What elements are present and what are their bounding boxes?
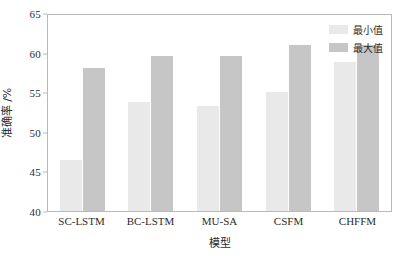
legend: 最小值最大值 xyxy=(325,19,387,58)
bar-group xyxy=(185,15,254,211)
bar xyxy=(83,68,105,211)
bar xyxy=(197,106,219,211)
bar-group xyxy=(48,15,117,211)
y-axis-tick-label: 65 xyxy=(30,8,41,20)
bar xyxy=(266,92,288,211)
bar xyxy=(289,45,311,211)
y-axis-tick-label: 40 xyxy=(30,206,41,218)
x-axis-tick-labels: SC-LSTMBC-LSTMMU-SACSFMCHFFM xyxy=(47,215,392,233)
legend-swatch-icon xyxy=(329,43,348,52)
plot-area: 最小值最大值 xyxy=(47,14,392,212)
bar xyxy=(357,45,379,211)
y-axis-tick-label: 45 xyxy=(30,166,41,178)
x-axis-tick-label: SC-LSTM xyxy=(47,215,116,233)
y-axis-tick-label: 55 xyxy=(30,87,41,99)
legend-label: 最小值 xyxy=(353,22,383,37)
legend-item: 最大值 xyxy=(329,40,383,55)
bar xyxy=(334,62,356,211)
x-axis-tick-label: CHFFM xyxy=(323,215,392,233)
bar-group xyxy=(254,15,323,211)
bar-group xyxy=(117,15,186,211)
y-axis-tick-label: 60 xyxy=(30,48,41,60)
y-axis-title: 准确率 /% xyxy=(0,88,14,139)
bar xyxy=(151,56,173,211)
bar-chart-figure: 404550556065 准确率 /% 最小值最大值 SC-LSTMBC-LST… xyxy=(0,0,403,261)
x-axis-title: 模型 xyxy=(47,234,392,250)
y-axis-tick-label: 50 xyxy=(30,127,41,139)
legend-item: 最小值 xyxy=(329,22,383,37)
x-axis-tick-label: BC-LSTM xyxy=(116,215,185,233)
x-axis-tick-label: CSFM xyxy=(254,215,323,233)
bar xyxy=(128,102,150,211)
legend-label: 最大值 xyxy=(353,40,383,55)
legend-swatch-icon xyxy=(329,25,348,34)
x-axis-tick-label: MU-SA xyxy=(185,215,254,233)
bar xyxy=(60,160,82,211)
bar xyxy=(220,56,242,211)
